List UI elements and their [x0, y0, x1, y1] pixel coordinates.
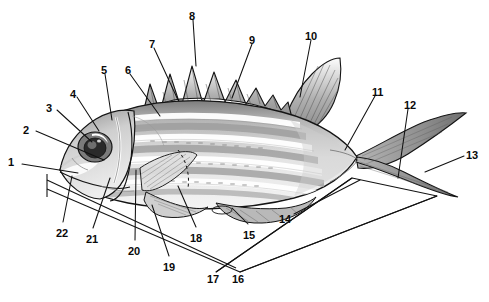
callout-number-13: 13	[466, 150, 478, 161]
fish-illustration	[0, 0, 489, 302]
leader-line-8	[193, 20, 196, 66]
callout-number-22: 22	[56, 228, 68, 239]
callout-number-16: 16	[232, 274, 244, 285]
callout-number-19: 19	[163, 262, 175, 273]
callout-number-17: 17	[207, 274, 219, 285]
callout-number-15: 15	[243, 230, 255, 241]
callout-number-8: 8	[189, 11, 195, 22]
caudal-fin	[356, 113, 466, 197]
callout-number-7: 7	[149, 39, 155, 50]
callout-number-9: 9	[249, 35, 255, 46]
callout-number-1: 1	[8, 157, 14, 168]
figure-canvas: 12345678910111213141516171819202122	[0, 0, 489, 302]
eye	[78, 132, 112, 162]
callout-number-5: 5	[101, 65, 107, 76]
callout-number-6: 6	[125, 65, 131, 76]
callout-number-20: 20	[128, 246, 140, 257]
callout-number-12: 12	[404, 100, 416, 111]
callout-number-18: 18	[190, 233, 202, 244]
leader-line-11	[345, 96, 375, 150]
leader-line-16	[240, 196, 437, 272]
callout-number-14: 14	[279, 214, 291, 225]
callout-number-2: 2	[23, 125, 29, 136]
callout-number-11: 11	[372, 87, 383, 98]
callout-number-3: 3	[46, 103, 52, 114]
callout-number-10: 10	[305, 31, 317, 42]
callout-number-21: 21	[86, 234, 98, 245]
leader-line-9	[232, 44, 252, 98]
leader-line-13	[425, 156, 464, 172]
callout-number-4: 4	[70, 89, 76, 100]
